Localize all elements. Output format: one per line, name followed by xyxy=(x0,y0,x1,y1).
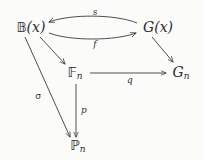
node-gn-symbol: G xyxy=(173,64,184,80)
edge-label-p: p xyxy=(81,106,87,115)
edge-label-f: f xyxy=(93,40,96,49)
edge-label-s: s xyxy=(93,8,98,17)
node-bbb-of-x: 𝔹(x) xyxy=(17,20,46,34)
node-bbb-symbol: 𝔹 xyxy=(17,19,27,35)
node-f-sub-n: 𝔽n xyxy=(68,65,83,81)
node-g-of-x: G(x) xyxy=(143,20,173,34)
arrow-gx-to-gn xyxy=(152,37,173,62)
arrow-bx-to-fn xyxy=(40,37,65,64)
node-f-symbol: 𝔽 xyxy=(68,64,77,80)
arrow-sigma xyxy=(25,37,70,137)
node-p-sub-n: ℙn xyxy=(70,138,85,154)
node-f-subscript: n xyxy=(77,71,83,81)
node-g-sub-n: Gn xyxy=(173,65,190,81)
node-g-symbol: G xyxy=(143,19,154,35)
node-bbb-arg: (x) xyxy=(27,19,46,35)
commutative-diagram: 𝔹(x) G(x) 𝔽n Gn ℙn s f σ q p xyxy=(0,0,203,160)
arrow-s xyxy=(49,16,137,23)
node-g-arg: (x) xyxy=(154,19,173,35)
node-p-symbol: ℙ xyxy=(70,137,80,153)
node-gn-subscript: n xyxy=(184,71,190,81)
edge-label-q: q xyxy=(127,76,133,85)
edge-label-sigma: σ xyxy=(35,92,41,101)
node-p-subscript: n xyxy=(80,144,86,154)
